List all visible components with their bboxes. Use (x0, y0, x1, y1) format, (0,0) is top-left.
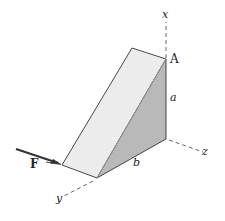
y-axis-line (64, 181, 93, 196)
z-axis-line (169, 140, 203, 152)
x-axis-label: x (162, 9, 168, 20)
z-axis-label: z (202, 146, 208, 157)
wedge-diagram: x A a z b F y (0, 0, 225, 221)
diagram-graphics (0, 0, 225, 221)
dimension-a-label: a (170, 92, 177, 103)
y-axis-label: y (56, 193, 62, 204)
force-label: F (30, 158, 39, 170)
dimension-b-label: b (133, 157, 140, 168)
point-a-label: A (170, 53, 179, 65)
